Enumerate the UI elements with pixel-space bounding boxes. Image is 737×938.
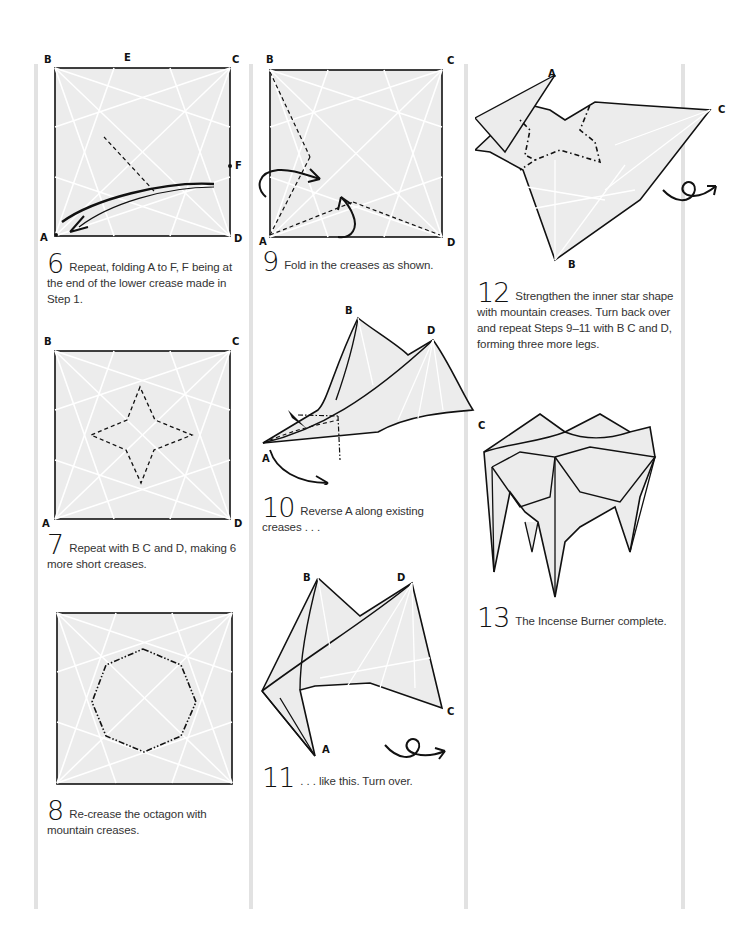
corner-label: C (232, 54, 239, 65)
corner-label: A (548, 68, 556, 79)
step-text: Repeat, folding A to F, F being at the e… (47, 261, 232, 305)
column-divider (249, 64, 253, 909)
step-6-diagram (54, 67, 232, 239)
corner-label: B (303, 572, 311, 583)
corner-label: C (447, 706, 454, 717)
step-7-diagram (54, 350, 232, 522)
step-number: 9 (262, 246, 278, 277)
step-number: 6 (47, 248, 63, 279)
corner-label: A (40, 232, 48, 243)
corner-label: A (42, 518, 50, 529)
step-10-caption-text: 10Reverse A along existing creases . . . (262, 500, 462, 535)
column-divider (34, 64, 38, 909)
step-13-caption: 13The Incense Burner complete. (477, 610, 677, 629)
corner-label: D (234, 233, 242, 244)
step-6-caption: 6Repeat, folding A to F, F being at the … (47, 256, 247, 307)
step-number: 10 (262, 492, 294, 523)
corner-label: C (447, 55, 454, 66)
corner-label: E (124, 52, 131, 63)
corner-label: C (718, 104, 725, 115)
step-8-diagram (56, 612, 234, 786)
corner-label: A (262, 453, 270, 464)
corner-label: C (232, 336, 239, 347)
corner-label: D (234, 518, 242, 529)
step-number: 12 (477, 277, 509, 308)
step-13-diagram (480, 412, 680, 602)
step-9-caption: 9Fold in the creases as shown. (262, 254, 462, 273)
corner-label: D (427, 325, 435, 336)
turn-over-icon (661, 178, 723, 208)
step-11-diagram (260, 578, 460, 758)
step-12-diagram (475, 70, 715, 265)
corner-label: B (44, 54, 52, 65)
step-11-caption: 11. . . like this. Turn over. (262, 770, 462, 789)
step-7-caption: 7Repeat with B C and D, making 6 more sh… (47, 537, 247, 572)
step-text: Fold in the creases as shown. (284, 259, 433, 271)
step-text: . . . like this. Turn over. (300, 775, 412, 787)
column-divider (464, 64, 468, 909)
corner-label: B (266, 54, 274, 65)
corner-label: F (235, 160, 242, 171)
step-number: 7 (47, 529, 63, 560)
corner-label: A (322, 744, 330, 755)
corner-label: D (447, 237, 455, 248)
turn-over-icon (383, 735, 453, 765)
step-10-diagram (258, 300, 478, 485)
step-8-caption: 8Re-crease the octagon with mountain cre… (47, 803, 247, 838)
step-12-caption: 12Strengthen the inner star shape with m… (477, 285, 677, 352)
step-number: 8 (47, 795, 63, 826)
corner-label: D (397, 572, 405, 583)
corner-label: B (345, 305, 353, 316)
corner-label: B (568, 259, 576, 270)
step-number: 13 (477, 602, 509, 633)
corner-label: B (44, 336, 52, 347)
step-text: The Incense Burner complete. (515, 615, 666, 627)
step-9-diagram (258, 67, 448, 242)
step-text: Repeat with B C and D, making 6 more sho… (47, 542, 236, 570)
step-number: 11 (262, 762, 294, 793)
step-text: Re-crease the octagon with mountain crea… (47, 808, 207, 836)
